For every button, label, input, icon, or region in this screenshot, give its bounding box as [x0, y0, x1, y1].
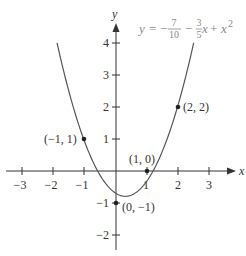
- x-tick-label: 3: [206, 178, 212, 192]
- svg-text:3: 3: [197, 17, 202, 28]
- svg-text:+: +: [210, 21, 217, 36]
- y-tick-labels: 4 3 2 1 −1 −2: [96, 36, 109, 242]
- svg-text:y: y: [137, 21, 145, 36]
- x-tick-label: −1: [76, 178, 89, 192]
- parabola-curve: [57, 43, 194, 196]
- point-labels: (−1, 1) (0, −1) (1, 0) (2, 2): [44, 100, 209, 214]
- equation-label: y = − 7 10 − 3 5 x + x 2: [137, 17, 233, 40]
- point-neg1-1: [82, 137, 87, 142]
- y-tick-label: 2: [103, 100, 109, 114]
- y-tick-label: 3: [103, 68, 109, 82]
- point-1-0: [145, 169, 150, 174]
- point-0-neg1: [114, 201, 119, 206]
- point-2-2: [176, 105, 181, 110]
- point-label: (0, −1): [122, 200, 155, 214]
- x-tick-label: −2: [45, 178, 58, 192]
- svg-text:10: 10: [169, 29, 179, 40]
- y-tick-label: 4: [103, 36, 109, 50]
- svg-text:2: 2: [228, 18, 233, 29]
- point-label: (2, 2): [183, 100, 209, 114]
- y-tick-label: −2: [96, 228, 109, 242]
- x-tick-label: 2: [175, 178, 181, 192]
- svg-text:x: x: [201, 21, 208, 36]
- svg-text:−: −: [160, 21, 167, 36]
- y-tick-label: 1: [103, 132, 109, 146]
- svg-text:5: 5: [197, 29, 202, 40]
- point-label: (−1, 1): [44, 132, 77, 146]
- svg-text:=: =: [149, 21, 156, 36]
- svg-text:x: x: [220, 21, 227, 36]
- y-tick-label: −1: [96, 196, 109, 210]
- parabola-chart: x y −3 −2 −1 1 2 3 4 3 2 1 −1 −2: [0, 0, 246, 256]
- x-axis-label: x: [238, 164, 245, 178]
- x-tick-labels: −3 −2 −1 1 2 3: [14, 178, 212, 192]
- svg-text:7: 7: [172, 17, 177, 28]
- y-axis-label: y: [111, 7, 118, 21]
- y-axis-arrow-icon: [113, 23, 120, 32]
- point-label: (1, 0): [129, 152, 155, 166]
- x-axis-arrow-icon: [227, 168, 236, 175]
- svg-text:−: −: [185, 21, 192, 36]
- x-tick-label: −3: [14, 178, 27, 192]
